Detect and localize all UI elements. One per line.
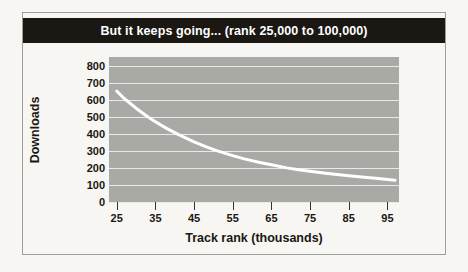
x-axis-tick-label: 55 <box>227 212 239 224</box>
x-axis-tick <box>387 202 388 210</box>
plot-area <box>109 57 399 202</box>
x-axis-tick <box>271 202 272 210</box>
downloads-curve <box>117 91 395 180</box>
y-axis-tick-label: 100 <box>87 179 105 191</box>
y-axis-tick-label: 200 <box>87 162 105 174</box>
y-axis-title-text: Downloads <box>28 96 42 163</box>
x-axis-tick-label: 95 <box>381 212 393 224</box>
y-axis-tick-label: 300 <box>87 145 105 157</box>
y-axis-tick-label: 400 <box>87 128 105 140</box>
y-axis-tick-label: 0 <box>99 196 105 208</box>
x-axis-tick-label: 25 <box>111 212 123 224</box>
x-axis-tick <box>155 202 156 210</box>
x-axis-tick-label: 85 <box>343 212 355 224</box>
y-axis-tick-label: 800 <box>87 60 105 72</box>
y-axis-tick-label: 600 <box>87 94 105 106</box>
x-axis-tick <box>310 202 311 210</box>
x-axis-tick-label: 45 <box>188 212 200 224</box>
downloads-curve-layer <box>109 57 399 202</box>
x-axis-title: Track rank (thousands) <box>109 231 399 245</box>
chart-figure: But it keeps going... (rank 25,000 to 10… <box>0 0 468 272</box>
x-axis-tick <box>349 202 350 210</box>
y-axis-title: Downloads <box>26 57 44 202</box>
y-axis-tick-label: 700 <box>87 77 105 89</box>
x-axis-tick <box>233 202 234 210</box>
y-axis-tick-labels: 0100200300400500600700800 <box>60 57 105 202</box>
x-axis-tick <box>194 202 195 210</box>
x-axis-tick-labels: 2535455565758595 <box>109 212 399 228</box>
x-axis-ticks <box>109 202 399 210</box>
x-axis-tick-label: 35 <box>149 212 161 224</box>
chart-title: But it keeps going... (rank 25,000 to 10… <box>100 24 367 38</box>
chart-title-bar: But it keeps going... (rank 25,000 to 10… <box>23 18 445 43</box>
x-axis-tick-label: 75 <box>304 212 316 224</box>
x-axis-tick <box>117 202 118 210</box>
y-axis-tick-label: 500 <box>87 111 105 123</box>
x-axis-tick-label: 65 <box>265 212 277 224</box>
